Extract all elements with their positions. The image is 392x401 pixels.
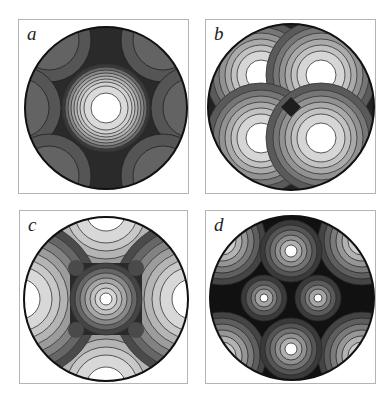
panel-label-c: c xyxy=(28,214,36,236)
panel-d: d xyxy=(205,210,376,384)
panel-label-b: b xyxy=(214,23,224,45)
contour-plot-c xyxy=(20,211,189,385)
panel-a: a xyxy=(18,19,189,194)
panel-label-d: d xyxy=(214,214,224,236)
panel-label-a: a xyxy=(27,23,37,45)
contour-plot-a xyxy=(19,20,190,195)
panel-b: b xyxy=(205,19,376,194)
contour-plot-d xyxy=(206,211,377,385)
contour-plot-b xyxy=(206,20,377,195)
panel-c: c xyxy=(19,210,188,384)
